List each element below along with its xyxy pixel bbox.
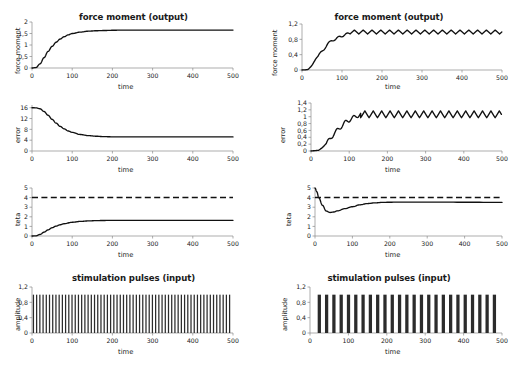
svg-text:1,2: 1,2 bbox=[296, 283, 306, 290]
svg-text:0,8: 0,8 bbox=[296, 299, 306, 306]
svg-text:3: 3 bbox=[307, 203, 311, 210]
plot-svg: 00,40,81,20100200300400500 bbox=[255, 0, 511, 95]
svg-text:300: 300 bbox=[416, 74, 428, 81]
svg-text:100: 100 bbox=[342, 337, 354, 344]
svg-text:0: 0 bbox=[24, 64, 28, 71]
svg-text:500: 500 bbox=[496, 155, 508, 162]
svg-text:0,4: 0,4 bbox=[18, 314, 28, 321]
svg-text:4: 4 bbox=[24, 194, 28, 201]
svg-text:200: 200 bbox=[381, 155, 393, 162]
svg-text:0,8: 0,8 bbox=[297, 120, 307, 127]
svg-text:1,2: 1,2 bbox=[288, 20, 298, 27]
svg-text:500: 500 bbox=[496, 240, 508, 247]
svg-text:0,5: 0,5 bbox=[18, 53, 28, 60]
svg-text:500: 500 bbox=[227, 155, 239, 162]
svg-text:300: 300 bbox=[147, 240, 159, 247]
plot-svg: 00,40,81,20100200300400500 bbox=[255, 265, 511, 367]
svg-text:300: 300 bbox=[147, 337, 159, 344]
svg-text:0,4: 0,4 bbox=[296, 314, 306, 321]
svg-text:0: 0 bbox=[30, 337, 34, 344]
svg-text:0: 0 bbox=[300, 74, 304, 81]
svg-text:0,2: 0,2 bbox=[297, 140, 307, 147]
svg-text:0: 0 bbox=[302, 329, 306, 336]
svg-text:500: 500 bbox=[496, 337, 508, 344]
panel-right-error: error time 00,20,40,60,811,21,4010020030… bbox=[255, 95, 511, 180]
svg-text:0: 0 bbox=[309, 155, 313, 162]
svg-text:2: 2 bbox=[24, 213, 28, 220]
svg-text:100: 100 bbox=[66, 240, 78, 247]
svg-text:4: 4 bbox=[307, 194, 311, 201]
svg-text:0: 0 bbox=[24, 232, 28, 239]
panel-right-teta: teta time 0123450100200300400500 bbox=[255, 180, 511, 265]
svg-text:300: 300 bbox=[421, 240, 433, 247]
svg-text:1,4: 1,4 bbox=[297, 99, 307, 106]
panel-left-error: error time 04812160100200300400500 bbox=[0, 95, 255, 180]
svg-text:8: 8 bbox=[24, 126, 28, 133]
svg-text:0,4: 0,4 bbox=[297, 133, 307, 140]
svg-text:0,6: 0,6 bbox=[297, 127, 307, 134]
svg-text:0,8: 0,8 bbox=[18, 299, 28, 306]
panel-left-teta: teta time 0123450100200300400500 bbox=[0, 180, 255, 265]
svg-text:400: 400 bbox=[187, 337, 199, 344]
svg-text:0: 0 bbox=[308, 337, 312, 344]
svg-text:200: 200 bbox=[106, 240, 118, 247]
svg-text:1: 1 bbox=[24, 41, 28, 48]
svg-text:400: 400 bbox=[187, 72, 199, 79]
svg-text:200: 200 bbox=[384, 240, 396, 247]
svg-text:1,2: 1,2 bbox=[297, 106, 307, 113]
svg-text:400: 400 bbox=[187, 240, 199, 247]
svg-text:0: 0 bbox=[30, 72, 34, 79]
svg-text:0,8: 0,8 bbox=[288, 36, 298, 43]
svg-text:1,2: 1,2 bbox=[18, 283, 28, 290]
svg-text:200: 200 bbox=[106, 155, 118, 162]
svg-text:400: 400 bbox=[459, 240, 471, 247]
svg-text:16: 16 bbox=[20, 104, 28, 111]
svg-text:0: 0 bbox=[24, 147, 28, 154]
svg-text:0: 0 bbox=[24, 329, 28, 336]
svg-text:400: 400 bbox=[456, 74, 468, 81]
svg-text:3: 3 bbox=[24, 203, 28, 210]
svg-text:12: 12 bbox=[20, 115, 28, 122]
plot-svg: 0123450100200300400500 bbox=[255, 180, 511, 265]
svg-text:500: 500 bbox=[227, 240, 239, 247]
svg-text:5: 5 bbox=[24, 184, 28, 191]
svg-text:0: 0 bbox=[294, 66, 298, 73]
plot-svg: 00,511,520100200300400500 bbox=[0, 0, 255, 95]
svg-text:500: 500 bbox=[227, 72, 239, 79]
figure-grid: force moment (output) force moment time … bbox=[0, 0, 511, 367]
svg-text:0: 0 bbox=[313, 240, 317, 247]
panel-right-force-moment: force moment (output) force moment time … bbox=[255, 0, 511, 95]
svg-text:300: 300 bbox=[147, 155, 159, 162]
plot-svg: 00,20,40,60,811,21,40100200300400500 bbox=[255, 95, 511, 180]
svg-text:100: 100 bbox=[336, 74, 348, 81]
svg-text:300: 300 bbox=[420, 155, 432, 162]
svg-text:1: 1 bbox=[303, 113, 307, 120]
svg-text:300: 300 bbox=[419, 337, 431, 344]
svg-text:2: 2 bbox=[307, 213, 311, 220]
svg-text:0: 0 bbox=[307, 232, 311, 239]
plot-svg: 04812160100200300400500 bbox=[0, 95, 255, 180]
svg-text:1,5: 1,5 bbox=[18, 30, 28, 37]
svg-text:0: 0 bbox=[30, 240, 34, 247]
panel-right-stimulation-pulses: stimulation pulses (input) amplitude tim… bbox=[255, 265, 511, 367]
svg-text:100: 100 bbox=[66, 337, 78, 344]
svg-text:0: 0 bbox=[30, 155, 34, 162]
svg-text:0,4: 0,4 bbox=[288, 51, 298, 58]
svg-text:100: 100 bbox=[343, 155, 355, 162]
svg-text:500: 500 bbox=[227, 337, 239, 344]
plot-svg: 00,40,81,20100200300400500 bbox=[0, 265, 255, 367]
svg-text:2: 2 bbox=[24, 18, 28, 25]
svg-text:100: 100 bbox=[66, 72, 78, 79]
svg-text:400: 400 bbox=[458, 337, 470, 344]
svg-text:1: 1 bbox=[24, 223, 28, 230]
panel-left-stimulation-pulses: stimulation pulses (input) amplitude tim… bbox=[0, 265, 255, 367]
svg-text:500: 500 bbox=[496, 74, 508, 81]
panel-left-force-moment: force moment (output) force moment time … bbox=[0, 0, 255, 95]
plot-svg: 0123450100200300400500 bbox=[0, 180, 255, 265]
svg-text:5: 5 bbox=[307, 184, 311, 191]
svg-text:200: 200 bbox=[106, 72, 118, 79]
svg-text:400: 400 bbox=[458, 155, 470, 162]
svg-text:400: 400 bbox=[187, 155, 199, 162]
svg-text:100: 100 bbox=[346, 240, 358, 247]
svg-text:300: 300 bbox=[147, 72, 159, 79]
